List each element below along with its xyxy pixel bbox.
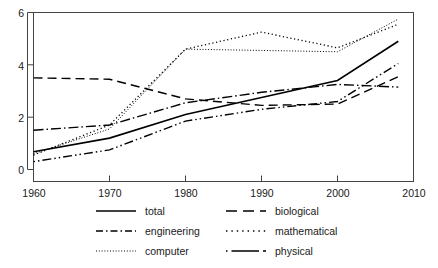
series-line-mathematical — [34, 24, 399, 155]
series-line-biological — [34, 77, 399, 106]
legend-label-mathematical: mathematical — [275, 226, 337, 237]
legend-key-dashed-icon — [226, 205, 266, 217]
figure: 6 4 2 0 1960 1970 1980 1990 2000 2010 — [0, 0, 438, 268]
series-layer — [34, 19, 399, 162]
x-axis — [34, 176, 414, 182]
series-line-physical — [34, 64, 399, 162]
legend-entry-mathematical: mathematical — [226, 222, 337, 240]
legend-label-physical: physical — [275, 246, 313, 257]
legend-key-dash-dot-long-icon — [226, 245, 266, 257]
legend-entry-physical: physical — [226, 242, 313, 260]
legend-entry-engineering: engineering — [96, 222, 200, 240]
legend-entry-biological: biological — [226, 202, 319, 220]
legend-entry-total: total — [96, 202, 165, 220]
legend-key-solid-icon — [96, 205, 136, 217]
series-line-total — [34, 41, 399, 151]
legend-entry-computer: computer — [96, 242, 189, 260]
legend-label-total: total — [145, 206, 165, 217]
series-line-computer — [34, 19, 399, 154]
legend-key-dashdot-icon — [96, 225, 136, 237]
legend-label-computer: computer — [145, 246, 189, 257]
legend-label-engineering: engineering — [145, 226, 200, 237]
legend-key-dotted-fine-icon — [96, 245, 136, 257]
legend-key-dotted-icon — [226, 225, 266, 237]
y-axis — [28, 13, 34, 170]
legend: total biological engineering mathematica… — [96, 200, 348, 262]
legend-label-biological: biological — [275, 206, 319, 217]
